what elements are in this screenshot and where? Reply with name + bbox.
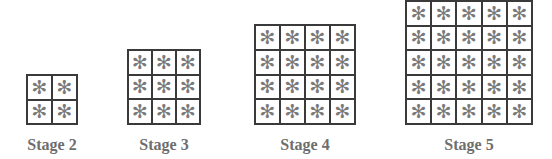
stage-5-grid: ✻✻✻✻✻✻✻✻✻✻✻✻✻✻✻✻✻✻✻✻✻✻✻✻✻ — [405, 0, 533, 125]
asterisk-icon: ✻ — [305, 25, 330, 50]
asterisk-icon: ✻ — [255, 50, 280, 75]
asterisk-icon: ✻ — [507, 26, 532, 51]
asterisk-icon: ✻ — [456, 75, 481, 100]
asterisk-icon: ✻ — [507, 50, 532, 75]
asterisk-icon: ✻ — [456, 99, 481, 124]
asterisk-icon: ✻ — [406, 50, 431, 75]
asterisk-icon: ✻ — [406, 1, 431, 26]
asterisk-icon: ✻ — [27, 75, 52, 100]
asterisk-icon: ✻ — [128, 75, 152, 100]
asterisk-icon: ✻ — [280, 50, 305, 75]
asterisk-icon: ✻ — [431, 99, 456, 124]
stage-4-grid: ✻✻✻✻✻✻✻✻✻✻✻✻✻✻✻✻ — [254, 24, 356, 125]
asterisk-icon: ✻ — [27, 100, 52, 125]
asterisk-icon: ✻ — [456, 50, 481, 75]
asterisk-icon: ✻ — [330, 25, 355, 50]
asterisk-icon: ✻ — [431, 75, 456, 100]
asterisk-icon: ✻ — [305, 75, 330, 100]
asterisk-icon: ✻ — [152, 75, 176, 100]
stage-3-grid: ✻✻✻✻✻✻✻✻✻ — [127, 49, 201, 125]
asterisk-icon: ✻ — [507, 75, 532, 100]
asterisk-icon: ✻ — [176, 75, 200, 100]
asterisk-icon: ✻ — [456, 26, 481, 51]
asterisk-icon: ✻ — [330, 50, 355, 75]
asterisk-icon: ✻ — [152, 99, 176, 124]
asterisk-icon: ✻ — [406, 26, 431, 51]
asterisk-icon: ✻ — [431, 50, 456, 75]
asterisk-icon: ✻ — [431, 1, 456, 26]
asterisk-icon: ✻ — [280, 75, 305, 100]
asterisk-icon: ✻ — [128, 50, 152, 75]
stage-3-label: Stage 3 — [124, 136, 204, 154]
asterisk-icon: ✻ — [406, 75, 431, 100]
asterisk-icon: ✻ — [507, 99, 532, 124]
asterisk-icon: ✻ — [305, 99, 330, 124]
asterisk-icon: ✻ — [255, 75, 280, 100]
asterisk-icon: ✻ — [52, 100, 77, 125]
asterisk-icon: ✻ — [456, 1, 481, 26]
asterisk-icon: ✻ — [330, 75, 355, 100]
stage-2-label: Stage 2 — [12, 136, 92, 154]
asterisk-icon: ✻ — [152, 50, 176, 75]
asterisk-icon: ✻ — [482, 75, 507, 100]
asterisk-icon: ✻ — [255, 25, 280, 50]
stage-5-label: Stage 5 — [429, 136, 509, 154]
asterisk-icon: ✻ — [280, 25, 305, 50]
asterisk-icon: ✻ — [52, 75, 77, 100]
asterisk-icon: ✻ — [482, 99, 507, 124]
stage-2-grid: ✻✻✻✻ — [26, 74, 78, 125]
asterisk-icon: ✻ — [305, 50, 330, 75]
asterisk-icon: ✻ — [482, 1, 507, 26]
asterisk-icon: ✻ — [176, 50, 200, 75]
asterisk-icon: ✻ — [482, 50, 507, 75]
asterisk-icon: ✻ — [431, 26, 456, 51]
asterisk-icon: ✻ — [128, 99, 152, 124]
asterisk-icon: ✻ — [255, 99, 280, 124]
asterisk-icon: ✻ — [482, 26, 507, 51]
stage-4-label: Stage 4 — [265, 136, 345, 154]
asterisk-icon: ✻ — [406, 99, 431, 124]
asterisk-icon: ✻ — [330, 99, 355, 124]
asterisk-icon: ✻ — [280, 99, 305, 124]
asterisk-icon: ✻ — [507, 1, 532, 26]
asterisk-icon: ✻ — [176, 99, 200, 124]
